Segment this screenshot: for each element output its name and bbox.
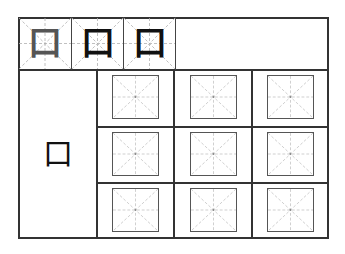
practice-row-divider <box>96 182 329 184</box>
practice-box[interactable] <box>112 188 159 232</box>
mi-zi-grid-icon <box>191 133 236 175</box>
practice-column-divider <box>173 69 175 239</box>
mi-zi-grid-icon <box>113 133 158 175</box>
mi-zi-grid-icon <box>191 76 236 118</box>
trace-cell-divider <box>175 17 176 70</box>
model-column-divider <box>96 69 98 239</box>
practice-box[interactable] <box>267 188 314 232</box>
trace-character: 口 <box>124 26 175 60</box>
mi-zi-grid-icon <box>113 189 158 231</box>
mi-zi-grid-icon <box>191 189 236 231</box>
practice-box[interactable] <box>190 132 237 176</box>
practice-column-divider <box>251 69 253 239</box>
practice-row-divider <box>96 126 329 128</box>
trace-cell-3[interactable]: 口 <box>124 18 175 69</box>
mi-zi-grid-icon <box>268 133 313 175</box>
trace-cell-1[interactable]: 口 <box>19 18 71 69</box>
model-character: 口 <box>19 139 96 169</box>
practice-box[interactable] <box>190 188 237 232</box>
trace-cell-2[interactable]: 口 <box>72 18 123 69</box>
practice-box[interactable] <box>267 75 314 119</box>
mi-zi-grid-icon <box>113 76 158 118</box>
mi-zi-grid-icon <box>268 76 313 118</box>
practice-box[interactable] <box>112 132 159 176</box>
practice-box[interactable] <box>267 132 314 176</box>
trace-character: 口 <box>19 26 71 60</box>
trace-character: 口 <box>72 26 123 60</box>
mi-zi-grid-icon <box>268 189 313 231</box>
practice-box[interactable] <box>112 75 159 119</box>
practice-box[interactable] <box>190 75 237 119</box>
